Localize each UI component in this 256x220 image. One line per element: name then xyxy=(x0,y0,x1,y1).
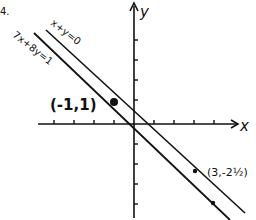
y-axis-label: y xyxy=(139,3,150,21)
label-x-plus-y-eq-0: x+y=0 xyxy=(49,17,83,47)
x-axis-label: x xyxy=(239,117,249,135)
x-axis xyxy=(38,120,238,128)
point-neg1-1 xyxy=(110,98,118,106)
label-point-neg1-1: (-1,1) xyxy=(50,96,97,114)
problem-number: 4. xyxy=(0,6,10,17)
point-3-neg2-5 xyxy=(193,169,197,173)
line-x-plus-y-eq-0 xyxy=(34,33,230,220)
graph-canvas: 4. x y xyxy=(0,0,256,220)
label-point-3-neg2-5: (3,-2½) xyxy=(207,166,248,179)
line-7x-plus-8y-eq-1 xyxy=(46,30,245,213)
point-lower-line xyxy=(211,201,215,205)
